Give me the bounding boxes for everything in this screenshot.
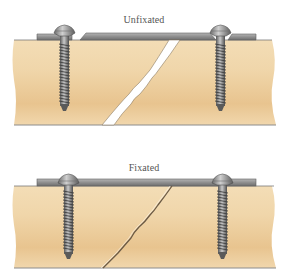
panel-unfixated: Unfixated <box>0 0 288 135</box>
screw-head <box>58 174 79 185</box>
plate-fixation-figure: Unfixated <box>0 0 288 275</box>
screw-head <box>210 25 231 36</box>
screw-head <box>212 174 233 185</box>
panel-fixated: Fixated <box>0 135 288 275</box>
screw-head <box>54 25 75 36</box>
fixated-illustration <box>0 135 288 275</box>
unfixated-illustration <box>0 0 288 135</box>
bone-body <box>13 186 277 268</box>
